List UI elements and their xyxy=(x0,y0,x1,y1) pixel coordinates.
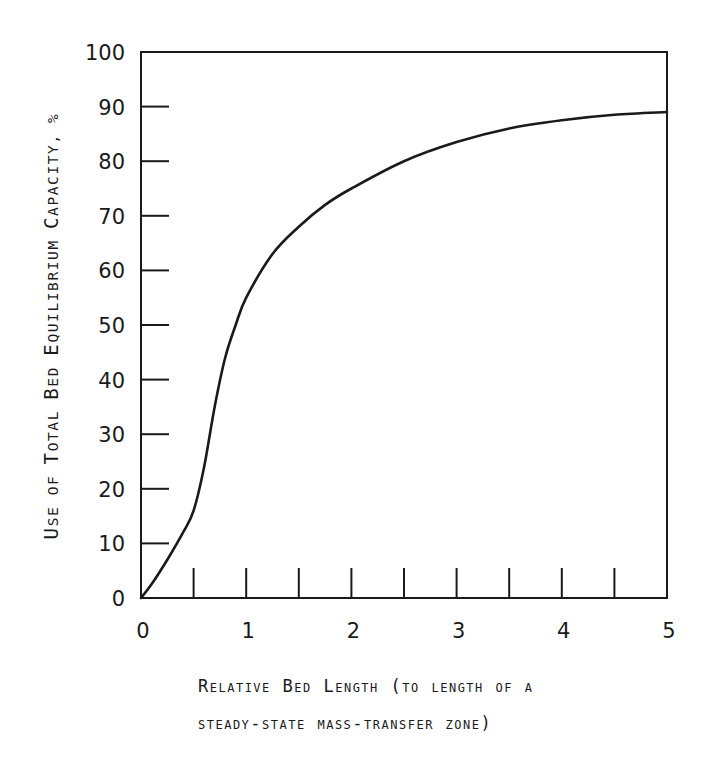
x-axis-ticks xyxy=(194,568,615,597)
y-axis-title-part: B xyxy=(40,387,62,400)
data-curve xyxy=(141,112,667,598)
y-tick-label: 20 xyxy=(98,478,125,502)
x-axis-title-text-1: Relative Bed Length (to length of a xyxy=(198,676,533,696)
y-axis-title-part: OTAL xyxy=(45,400,61,452)
y-axis-title-part: QUILIBRIUM xyxy=(45,229,61,343)
chart: 0102030405060708090100 012345 USE OF TOT… xyxy=(0,0,709,768)
x-tick-label: 1 xyxy=(242,619,255,643)
y-axis-title-part: E xyxy=(40,343,62,356)
y-axis-title-part: U xyxy=(40,526,62,539)
x-tick-label: 0 xyxy=(136,619,149,643)
y-axis-title-part: APACITY, % xyxy=(45,113,61,216)
y-axis-title: USE OF TOTAL BED EQUILIBRIUM CAPACITY, % xyxy=(40,113,62,540)
x-tick-label: 2 xyxy=(347,619,360,643)
x-axis-title-text-2: steady-state mass-transfer zone) xyxy=(198,713,492,733)
y-tick-label: 40 xyxy=(98,369,125,393)
y-tick-label: 0 xyxy=(112,587,125,611)
plot-border xyxy=(141,52,667,598)
y-axis-title-part: C xyxy=(40,216,62,229)
x-axis-title-line-1: Relative Bed Length (to length of a xyxy=(198,676,533,696)
y-tick-label: 70 xyxy=(98,205,125,229)
x-axis-tick-labels: 012345 xyxy=(136,619,675,643)
y-axis-tick-labels: 0102030405060708090100 xyxy=(85,41,125,611)
x-axis-title-line-2: steady-state mass-transfer zone) xyxy=(198,713,492,733)
y-tick-label: 30 xyxy=(98,423,125,447)
y-tick-label: 90 xyxy=(98,96,125,120)
x-tick-label: 4 xyxy=(557,619,570,643)
y-axis-title-part: T xyxy=(40,451,62,464)
y-tick-label: 80 xyxy=(98,150,125,174)
y-axis-ticks xyxy=(141,107,169,544)
plot-frame xyxy=(141,52,667,598)
y-axis-title-part: SE OF xyxy=(45,464,61,526)
y-tick-label: 100 xyxy=(85,41,125,65)
y-axis-title-part: ED xyxy=(45,356,61,387)
y-tick-label: 50 xyxy=(98,314,125,338)
x-tick-label: 3 xyxy=(452,619,465,643)
y-tick-label: 60 xyxy=(98,259,125,283)
x-tick-label: 5 xyxy=(662,619,675,643)
y-tick-label: 10 xyxy=(98,532,125,556)
